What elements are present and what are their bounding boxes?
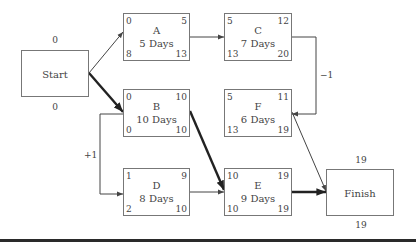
- lag-b-d-label: +1: [84, 150, 97, 160]
- link-b-d: [100, 114, 123, 194]
- lag-c-f-label: −1: [320, 70, 333, 80]
- activity-d-node: 1 9 D 8 Days 2 10: [123, 168, 190, 216]
- activity-a-id: A: [124, 24, 189, 37]
- activity-f-ls: 13: [227, 125, 238, 135]
- link-start-b: [89, 73, 123, 112]
- finish-label: Finish: [327, 186, 393, 199]
- start-top-value: 0: [40, 35, 70, 45]
- link-b-e: [190, 111, 224, 190]
- activity-e-id: E: [225, 179, 291, 192]
- activity-e-node: 10 19 E 9 Days 10 19: [224, 168, 292, 216]
- activity-e-lf: 19: [278, 204, 289, 214]
- activity-d-ls: 2: [126, 204, 132, 214]
- activity-b-lf: 10: [176, 125, 187, 135]
- activity-d-id: D: [124, 179, 189, 192]
- link-start-a: [89, 32, 123, 73]
- start-bottom-value: 0: [40, 102, 70, 112]
- link-f-finish: [292, 112, 326, 191]
- activity-a-ls: 8: [126, 49, 132, 59]
- activity-c-ls: 13: [227, 49, 238, 59]
- activity-b-node: 0 10 B 10 Days 0 10: [123, 89, 190, 137]
- activity-f-node: 5 11 F 6 Days 13 19: [224, 89, 292, 137]
- activity-d-lf: 10: [176, 204, 187, 214]
- finish-top-value: 19: [346, 155, 376, 165]
- start-node: Start: [21, 50, 89, 97]
- activity-a-node: 0 5 A 5 Days 8 13: [123, 13, 190, 61]
- start-label: Start: [22, 67, 88, 80]
- activity-e-ls: 10: [227, 204, 238, 214]
- link-c-f: [292, 37, 316, 114]
- activity-a-lf: 13: [176, 49, 187, 59]
- finish-bottom-value: 19: [346, 220, 376, 230]
- activity-c-id: C: [225, 24, 291, 37]
- activity-f-lf: 19: [278, 125, 289, 135]
- activity-c-lf: 20: [278, 49, 289, 59]
- activity-b-id: B: [124, 100, 189, 113]
- activity-c-node: 5 12 C 7 Days 13 20: [224, 13, 292, 61]
- activity-b-ls: 0: [126, 125, 132, 135]
- activity-f-id: F: [225, 100, 291, 113]
- finish-node: Finish: [326, 169, 394, 216]
